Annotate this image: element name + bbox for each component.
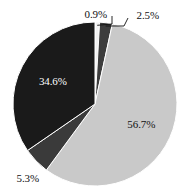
pie-slice-group	[13, 22, 177, 186]
pie-slice-label-3: 5.3%	[17, 173, 40, 184]
pie-slice-label-4: 34.6%	[39, 76, 67, 87]
pie-slice-label-1: 2.5%	[137, 10, 160, 21]
pie-slice-label-2: 56.7%	[127, 119, 155, 130]
pie-slice-label-0: 0.9%	[85, 9, 108, 20]
pie-chart-figure: 0.9% 2.5% 56.7% 5.3% 34.6%	[0, 0, 190, 194]
pie-chart-canvas	[0, 0, 190, 194]
